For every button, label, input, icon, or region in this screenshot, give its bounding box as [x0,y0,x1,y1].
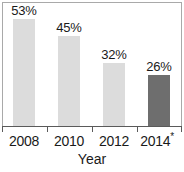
bar-2012 [103,63,125,126]
x-axis-tick [181,127,182,132]
x-axis-tick [47,127,48,132]
x-axis-tick [2,127,3,132]
bar-value-label-2014: 26% [146,59,171,74]
bar-group-2008: 53% [13,0,35,126]
x-axis-tick [92,127,93,132]
x-axis-tick [137,127,138,132]
bar-value-label-2010: 45% [56,20,81,35]
bar-2010 [58,36,80,126]
x-axis-tick-labels: 2008 2010 2012 2014* [0,133,184,153]
x-tick-label-2010: 2010 [46,133,92,149]
bar-chart: 53% 45% 32% 26% 2008 2010 2012 2014* Yea… [0,0,184,172]
footnote-asterisk: * [170,131,174,142]
x-tick-label-2014: 2014* [134,133,180,149]
x-axis-title: Year [0,151,184,167]
x-tick-label-2008: 2008 [1,133,47,149]
bar-value-label-2012: 32% [101,47,126,62]
bar-value-label-2008: 53% [11,3,36,18]
bars-layer: 53% 45% 32% 26% [0,0,184,126]
bar-group-2014: 26% [148,0,170,126]
bar-2014 [148,75,170,126]
x-tick-label-2014-text: 2014 [140,133,170,149]
bar-group-2012: 32% [103,0,125,126]
x-tick-label-2012: 2012 [91,133,137,149]
bar-2008 [13,19,35,126]
bar-group-2010: 45% [58,0,80,126]
